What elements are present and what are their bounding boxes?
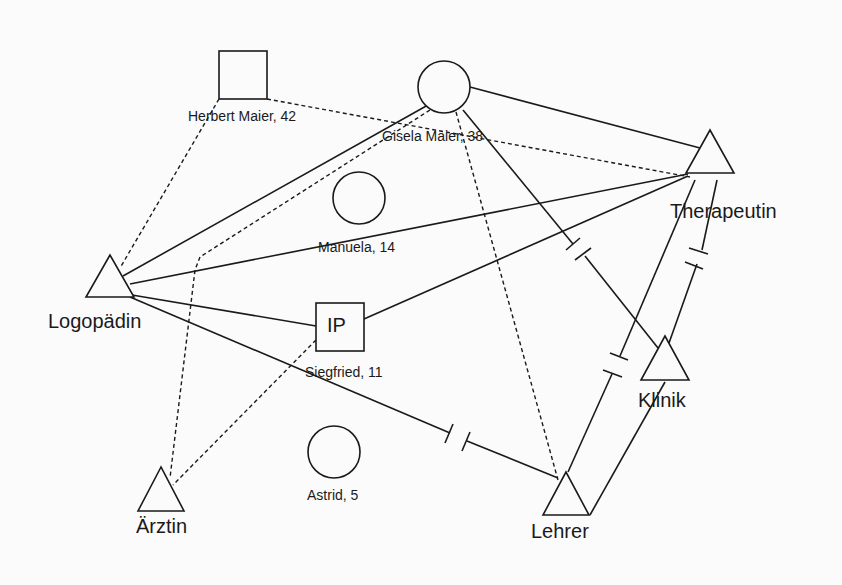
node-lehrer-triangle bbox=[543, 472, 589, 515]
node-herbert-male-square bbox=[219, 51, 267, 99]
edge-siegfried-aerztin bbox=[173, 340, 316, 485]
label-identified-patient: IP bbox=[327, 314, 346, 337]
label-siegfried: Siegfried, 11 bbox=[305, 364, 383, 380]
label-manuela: Manuela, 14 bbox=[318, 239, 395, 255]
label-lehrer: Lehrer bbox=[531, 520, 589, 543]
edge-gisela-therapeutin bbox=[470, 87, 700, 148]
node-klinik-triangle bbox=[641, 336, 689, 380]
label-herbert: Herbert Maier, 42 bbox=[188, 108, 296, 124]
node-aerztin-triangle bbox=[138, 467, 184, 511]
weak-relationship-lines bbox=[120, 99, 690, 485]
edge-herbert-logopaedin bbox=[120, 99, 219, 268]
node-gisela-female-circle bbox=[418, 61, 470, 113]
label-aerztin: Ärztin bbox=[136, 515, 187, 538]
edge-logopaedin-therapeutin bbox=[130, 174, 688, 284]
edge-siegfried-therapeutin bbox=[364, 176, 688, 319]
node-manuela-female-circle bbox=[333, 172, 385, 224]
ecomap-diagram: Herbert Maier, 42 Gisela Maier, 38 Manue… bbox=[0, 0, 842, 585]
node-astrid-female-circle bbox=[308, 426, 360, 478]
diagram-canvas bbox=[0, 0, 842, 585]
label-gisela: Gisela Maier, 38 bbox=[382, 128, 483, 144]
edge-gisela-aerztin bbox=[170, 110, 430, 478]
edge-logopaedin-siegfried bbox=[132, 295, 316, 326]
edge-gisela-lehrer bbox=[456, 112, 558, 480]
node-therapeutin-triangle bbox=[686, 130, 734, 173]
label-therapeutin: Therapeutin bbox=[670, 200, 777, 223]
label-astrid: Astrid, 5 bbox=[307, 487, 358, 503]
node-logopaedin-triangle bbox=[86, 255, 134, 297]
label-logopaedin: Logopädin bbox=[48, 310, 141, 333]
label-klinik: Klinik bbox=[638, 389, 686, 412]
strong-relationship-lines bbox=[123, 87, 700, 515]
